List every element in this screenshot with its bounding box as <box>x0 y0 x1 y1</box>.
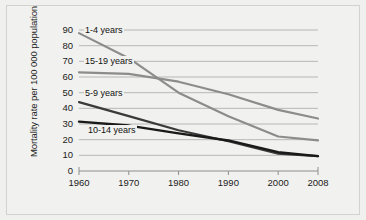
y-tick-label: 0 <box>51 166 73 176</box>
series-label-15-19-years: 15-19 years <box>84 56 134 66</box>
series-label-10-14-years: 10-14 years <box>87 125 137 135</box>
x-tick-label: 1990 <box>208 178 248 188</box>
y-tick-label: 30 <box>51 119 73 129</box>
y-tick-label: 60 <box>51 72 73 82</box>
y-tick-label: 90 <box>51 25 73 35</box>
x-tick-label: 2008 <box>298 178 338 188</box>
y-tick-label: 10 <box>51 150 73 160</box>
y-tick-label: 20 <box>51 135 73 145</box>
x-tick-label: 2000 <box>258 178 298 188</box>
axis-lines <box>79 167 318 175</box>
y-tick-label: 50 <box>51 88 73 98</box>
chart-figure: Mortality rate per 100 000 population 01… <box>0 0 366 220</box>
x-tick-label: 1960 <box>59 178 99 188</box>
series-label-5-9-years: 5-9 years <box>84 88 124 98</box>
y-tick-label: 70 <box>51 56 73 66</box>
y-tick-label: 40 <box>51 103 73 113</box>
chart-frame: Mortality rate per 100 000 population 01… <box>6 5 360 215</box>
x-tick-label: 1980 <box>159 178 199 188</box>
series-label-1-4-years: 1-4 years <box>84 25 124 35</box>
y-tick-label: 80 <box>51 41 73 51</box>
x-tick-label: 1970 <box>109 178 149 188</box>
